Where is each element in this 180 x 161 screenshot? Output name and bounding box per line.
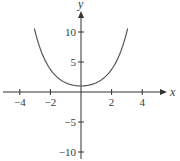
x-tick-label: 4 [139, 96, 145, 108]
y-tick-label: 5 [71, 56, 77, 68]
y-tick-label: −10 [59, 146, 77, 158]
axes: xy [3, 0, 176, 159]
x-axis-arrow-icon [160, 89, 167, 95]
y-axis-arrow-icon [78, 11, 84, 18]
y-axis-label: y [77, 0, 84, 11]
x-tick-label: −2 [45, 96, 57, 108]
x-tick-label: −4 [14, 96, 26, 108]
x-tick-label: 2 [109, 96, 115, 108]
y-tick-label: 10 [65, 26, 77, 38]
x-axis-label: x [169, 85, 176, 99]
chart: xy −4−224105−5−10 [0, 0, 180, 161]
y-tick-label: −5 [64, 116, 76, 128]
